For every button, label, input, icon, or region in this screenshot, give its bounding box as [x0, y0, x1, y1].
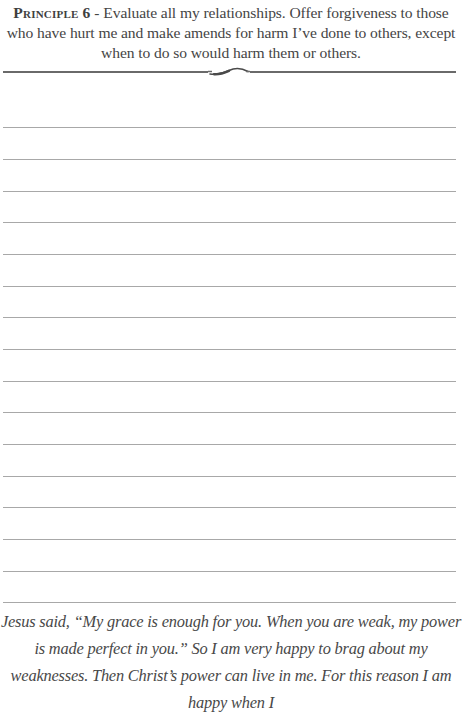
- writing-line: [3, 412, 456, 413]
- writing-line: [3, 571, 456, 572]
- writing-line: [3, 539, 456, 540]
- scripture-quote: Jesus said, “My grace is enough for you.…: [0, 608, 462, 716]
- writing-line: [3, 317, 456, 318]
- writing-line: [3, 507, 456, 508]
- writing-line: [3, 286, 456, 287]
- writing-line: [3, 254, 456, 255]
- writing-line: [3, 191, 456, 192]
- writing-line: [3, 222, 456, 223]
- writing-line: [3, 381, 456, 382]
- writing-line: [3, 476, 456, 477]
- writing-line: [3, 444, 456, 445]
- writing-line: [3, 127, 456, 128]
- writing-area[interactable]: [3, 0, 456, 681]
- writing-line: [3, 159, 456, 160]
- writing-line: [3, 349, 456, 350]
- writing-line: [3, 602, 456, 603]
